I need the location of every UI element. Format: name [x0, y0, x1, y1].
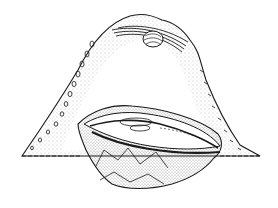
oyster-drawing — [0, 0, 278, 208]
pearl — [143, 31, 163, 47]
oyster-illustration — [0, 0, 278, 208]
